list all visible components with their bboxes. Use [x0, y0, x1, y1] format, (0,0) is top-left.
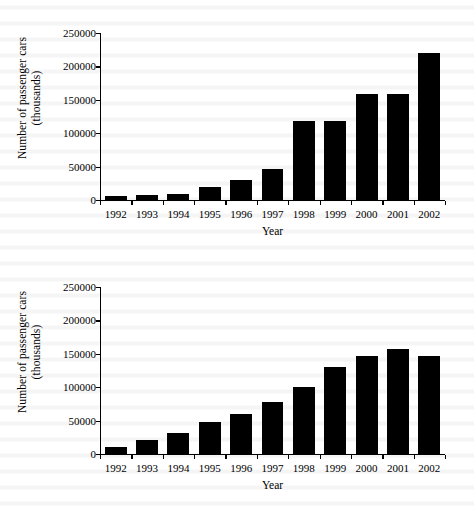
bar-1997: [262, 402, 284, 454]
x-axis-tick: [414, 455, 415, 459]
bar-1996: [230, 414, 252, 454]
x-axis-line: [100, 454, 445, 455]
y-axis-tick: [96, 421, 100, 422]
x-tick-label: 2002: [418, 208, 440, 220]
x-tick-label: 1993: [136, 462, 158, 474]
x-axis-tick: [225, 201, 226, 205]
x-tick-label: 1997: [262, 462, 284, 474]
bar-1998: [293, 387, 315, 454]
x-axis-tick: [351, 455, 352, 459]
bar-1995: [199, 422, 221, 454]
x-axis-tick: [351, 201, 352, 205]
x-tick-label: 1992: [105, 462, 127, 474]
x-axis-tick: [288, 201, 289, 205]
y-axis-tick: [96, 320, 100, 321]
x-axis-title: Year: [262, 225, 283, 237]
x-axis-tick: [194, 201, 195, 205]
x-tick-label: 2000: [356, 462, 378, 474]
bar-2000: [356, 94, 378, 200]
x-tick-label: 2001: [387, 208, 409, 220]
x-tick-label: 1994: [167, 208, 189, 220]
x-tick-label: 1993: [136, 208, 158, 220]
bar-2002: [418, 53, 440, 200]
x-tick-label: 1996: [230, 462, 252, 474]
bar-2001: [387, 349, 409, 454]
bar-1998: [293, 121, 315, 200]
x-tick-label: 1998: [293, 462, 315, 474]
y-axis-tick: [96, 354, 100, 355]
bar-1997: [262, 169, 284, 200]
x-tick-label: 1994: [167, 462, 189, 474]
lower-bar-chart: Number of passenger cars (thousands) 050…: [0, 254, 474, 508]
y-axis-tick: [96, 287, 100, 288]
y-axis-tick: [96, 100, 100, 101]
x-tick-label: 1999: [324, 208, 346, 220]
x-tick-label: 1992: [105, 208, 127, 220]
x-axis-title: Year: [262, 479, 283, 491]
x-axis-tick: [445, 455, 446, 459]
x-axis-tick: [194, 455, 195, 459]
x-axis-tick: [382, 201, 383, 205]
x-tick-label: 2001: [387, 462, 409, 474]
x-tick-label: 1995: [199, 208, 221, 220]
bar-1999: [324, 121, 346, 200]
bar-1995: [199, 187, 221, 200]
x-tick-label: 1995: [199, 462, 221, 474]
x-axis-tick: [445, 201, 446, 205]
x-axis-tick: [288, 455, 289, 459]
x-axis-line: [100, 200, 445, 201]
y-axis-tick: [96, 33, 100, 34]
x-axis-tick: [225, 455, 226, 459]
bar-1993: [136, 440, 158, 454]
y-axis-line: [100, 287, 101, 454]
x-axis-tick: [163, 455, 164, 459]
bar-1996: [230, 180, 252, 200]
upper-bar-chart: Number of passenger cars (thousands) 050…: [0, 0, 474, 254]
x-tick-label: 1997: [262, 208, 284, 220]
x-axis-tick: [131, 455, 132, 459]
x-tick-label: 1998: [293, 208, 315, 220]
x-axis-tick: [257, 201, 258, 205]
x-axis-tick: [320, 455, 321, 459]
bar-1999: [324, 367, 346, 454]
x-axis-tick: [163, 201, 164, 205]
x-axis-tick: [131, 201, 132, 205]
x-tick-label: 2002: [418, 462, 440, 474]
y-axis-tick: [96, 133, 100, 134]
y-axis-tick: [96, 66, 100, 67]
x-axis-tick: [382, 455, 383, 459]
bar-1992: [105, 447, 127, 454]
bar-2002: [418, 356, 440, 454]
bar-2001: [387, 94, 409, 200]
plot-area-1: Number of passenger cars (thousands) 050…: [0, 0, 474, 254]
x-axis-tick: [257, 455, 258, 459]
x-tick-label: 2000: [356, 208, 378, 220]
x-axis-tick: [100, 201, 101, 205]
x-axis-tick: [320, 201, 321, 205]
x-axis-tick: [100, 455, 101, 459]
bar-2000: [356, 356, 378, 454]
y-axis-tick: [96, 387, 100, 388]
x-tick-label: 1996: [230, 208, 252, 220]
y-axis-line: [100, 33, 101, 200]
y-axis-tick: [96, 167, 100, 168]
x-tick-label: 1999: [324, 462, 346, 474]
plot-area-2: Number of passenger cars (thousands) 050…: [0, 254, 474, 508]
bar-1994: [167, 433, 189, 454]
x-axis-tick: [414, 201, 415, 205]
